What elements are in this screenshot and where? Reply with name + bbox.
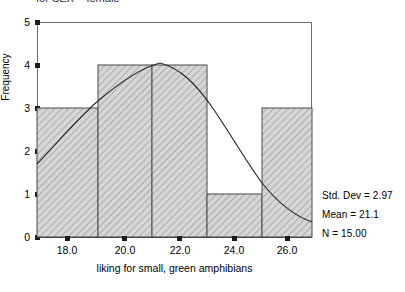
histogram-bars — [37, 65, 312, 237]
bar-26 — [262, 108, 312, 237]
mean-label: Mean = 21.1 — [322, 205, 393, 224]
bar-24 — [207, 194, 262, 237]
bar-20 — [98, 65, 152, 237]
std-dev-label: Std. Dev = 2.97 — [322, 186, 393, 205]
n-label: N = 15.00 — [322, 224, 393, 243]
plot-area — [0, 0, 405, 292]
bar-22 — [152, 65, 207, 237]
histogram-chart: for SEX = female Frequency liking for sm… — [0, 0, 405, 292]
bar-18 — [37, 108, 98, 237]
statistics-box: Std. Dev = 2.97 Mean = 21.1 N = 15.00 — [322, 186, 393, 243]
